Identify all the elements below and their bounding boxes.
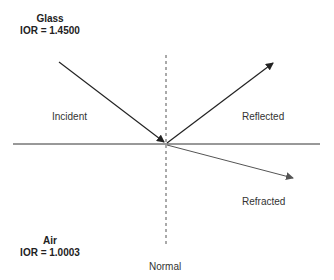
reflected-label: Reflected bbox=[242, 111, 284, 122]
incident-ray bbox=[59, 62, 164, 142]
air-ior: IOR = 1.0003 bbox=[10, 247, 90, 259]
reflected-ray bbox=[167, 63, 273, 143]
glass-name: Glass bbox=[10, 13, 90, 25]
incident-label: Incident bbox=[52, 111, 87, 122]
normal-label: Normal bbox=[149, 261, 181, 272]
refracted-label: Refracted bbox=[242, 196, 285, 207]
glass-medium-label: Glass IOR = 1.4500 bbox=[10, 13, 90, 37]
air-medium-label: Air IOR = 1.0003 bbox=[10, 235, 90, 259]
refracted-ray bbox=[167, 145, 293, 178]
glass-ior: IOR = 1.4500 bbox=[10, 25, 90, 37]
air-name: Air bbox=[10, 235, 90, 247]
